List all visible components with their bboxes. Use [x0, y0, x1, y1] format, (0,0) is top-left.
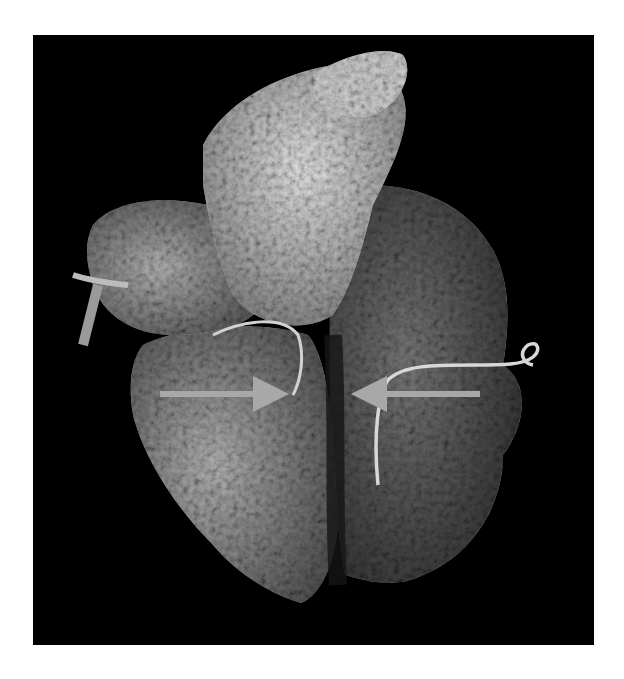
ct-image-frame [33, 35, 594, 645]
right-ventricle [131, 326, 338, 603]
heart-render [33, 35, 594, 645]
interventricular-groove [333, 335, 338, 585]
